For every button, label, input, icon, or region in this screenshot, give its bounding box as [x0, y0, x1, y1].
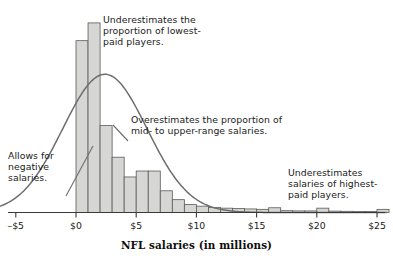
x-axis-title: NFL salaries (in millions)	[0, 239, 393, 251]
histogram-bar	[100, 126, 112, 213]
histogram-bar	[172, 200, 184, 213]
x-axis-tick-label: $0	[70, 220, 82, 231]
histogram-bar	[76, 41, 88, 213]
x-axis-tick-label: $5	[130, 220, 142, 231]
annotation-underestimates-lowest-paid: Underestimates the proportion of lowest-…	[103, 14, 203, 48]
annotation-underestimates-highest-paid: Underestimates salaries of highest-paid …	[288, 167, 388, 201]
histogram-bar	[124, 177, 136, 213]
x-axis-tick-label: $20	[308, 220, 326, 231]
leader-line-overestimates-mid	[113, 125, 128, 141]
x-axis-tick-label: $10	[188, 220, 206, 231]
histogram-bar	[148, 171, 160, 212]
x-axis-tick-label: –$5	[8, 220, 24, 231]
histogram-bar	[136, 171, 148, 212]
x-axis-tick-label: $25	[368, 220, 386, 231]
histogram-bar	[160, 191, 172, 213]
x-axis-tick-label: $15	[248, 220, 266, 231]
histogram-bar	[184, 205, 196, 213]
histogram-bar	[196, 206, 208, 212]
annotation-overestimates-mid-upper: Overestimates the proportion of mid- to …	[131, 114, 291, 136]
nfl-salaries-histogram-figure: Underestimates the proportion of lowest-…	[0, 0, 393, 261]
annotation-allows-negative-salaries: Allows for negative salaries.	[8, 150, 68, 184]
histogram-bar	[112, 157, 124, 212]
histogram-bar	[88, 23, 100, 213]
